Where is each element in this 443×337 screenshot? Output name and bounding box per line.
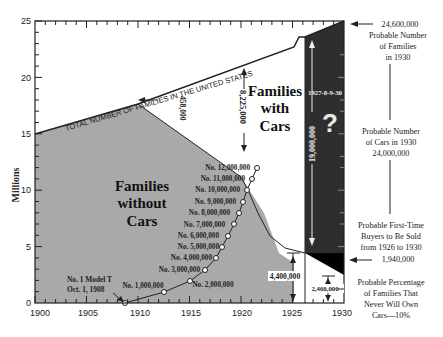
svg-text:No. 4,000,000: No. 4,000,000 xyxy=(171,254,213,262)
svg-text:Probable Percentage: Probable Percentage xyxy=(357,278,424,287)
svg-text:Buyers to Be Sold: Buyers to Be Sold xyxy=(361,232,421,241)
never-own-note: Probable Percentage of Families That Nev… xyxy=(357,278,424,320)
svg-text:No. 12,000,000: No. 12,000,000 xyxy=(205,164,250,172)
x-tick-labels: 1900 1905 1910 1915 1920 1925 1930 xyxy=(30,308,352,318)
svg-text:5: 5 xyxy=(26,242,31,252)
svg-text:Probable First-Time: Probable First-Time xyxy=(358,221,424,230)
svg-text:1,940,000: 1,940,000 xyxy=(382,255,415,264)
gap-1926-label: 4,400,000 xyxy=(270,272,301,281)
svg-text:Families: Families xyxy=(248,83,302,99)
svg-text:1905: 1905 xyxy=(78,308,98,318)
svg-text:1920: 1920 xyxy=(232,308,252,318)
gap-1920-label: 8,225,000 xyxy=(238,90,248,124)
svg-text:15: 15 xyxy=(21,129,31,139)
svg-text:without: without xyxy=(117,195,166,211)
svg-text:1915: 1915 xyxy=(181,308,201,318)
future-total-label: 19,000,000 xyxy=(308,126,317,162)
svg-text:No. 8,000,000: No. 8,000,000 xyxy=(189,209,231,217)
svg-text:with: with xyxy=(261,100,290,116)
svg-text:25: 25 xyxy=(21,16,31,26)
question-mark: ? xyxy=(322,108,338,138)
svg-text:Families: Families xyxy=(115,178,169,194)
families-note: 24,600,000 Probable Number of Families i… xyxy=(369,20,427,62)
arrow-down-icon xyxy=(241,145,247,152)
svg-text:No. 7,000,000: No. 7,000,000 xyxy=(184,221,226,229)
svg-text:1900: 1900 xyxy=(30,308,50,318)
y-axis-label: Millions xyxy=(10,167,21,202)
total-families-line xyxy=(35,21,344,134)
svg-text:1925: 1925 xyxy=(282,308,302,318)
svg-text:Probable Number: Probable Number xyxy=(369,31,427,40)
svg-text:Cars: Cars xyxy=(260,118,291,134)
future-years-label: 1927-8-9-30 xyxy=(308,89,343,96)
y-tick-labels: 25 20 15 10 5 0 xyxy=(21,16,31,308)
svg-text:Oct. 1, 1908: Oct. 1, 1908 xyxy=(67,285,105,294)
arrow-left-icon xyxy=(349,257,357,263)
arrow-up-icon xyxy=(290,256,296,263)
svg-text:1910: 1910 xyxy=(130,308,150,318)
svg-text:in 1930: in 1930 xyxy=(386,53,411,62)
gap-1910-label: 458,000 xyxy=(178,96,187,121)
svg-text:of Cars in 1930: of Cars in 1930 xyxy=(366,138,417,147)
svg-text:No. 10,000,000: No. 10,000,000 xyxy=(195,186,240,194)
arrow-left-icon xyxy=(350,21,358,27)
svg-text:No. 1 Model T: No. 1 Model T xyxy=(67,275,112,284)
svg-text:1930: 1930 xyxy=(332,308,352,318)
svg-text:0: 0 xyxy=(26,298,31,308)
svg-text:Cars: Cars xyxy=(127,213,158,229)
svg-text:No. 6,000,000: No. 6,000,000 xyxy=(178,232,220,240)
gap-1930-label: 2,460,000 xyxy=(311,285,339,292)
svg-text:from 1926 to 1930: from 1926 to 1930 xyxy=(360,243,421,252)
svg-text:No. 5,000,000: No. 5,000,000 xyxy=(178,243,220,251)
svg-text:of Families That: of Families That xyxy=(364,289,419,298)
svg-text:24,000,000: 24,000,000 xyxy=(373,149,410,158)
svg-text:No. 9,000,000: No. 9,000,000 xyxy=(195,198,237,206)
svg-text:No. 2,000,000: No. 2,000,000 xyxy=(192,281,234,289)
svg-text:24,600,000: 24,600,000 xyxy=(382,20,419,29)
svg-text:of Families: of Families xyxy=(379,42,416,51)
svg-text:20: 20 xyxy=(21,73,31,83)
svg-text:No. 3,000,000: No. 3,000,000 xyxy=(159,266,201,274)
svg-text:Cars—10%: Cars—10% xyxy=(372,311,410,320)
with-cars-label: Families with Cars xyxy=(248,83,302,134)
svg-text:No. 11,000,000: No. 11,000,000 xyxy=(201,175,246,183)
chart-canvas: 25 20 15 10 5 0 1900 1905 1910 1915 1920… xyxy=(0,0,443,337)
buyers-note: Probable First-Time Buyers to Be Sold fr… xyxy=(358,221,424,264)
svg-text:Probable Number: Probable Number xyxy=(362,127,420,136)
svg-text:No. 1,000,000: No. 1,000,000 xyxy=(122,282,164,290)
svg-text:Never Will Own: Never Will Own xyxy=(364,300,418,309)
cars-note: Probable Number of Cars in 1930 24,000,0… xyxy=(362,127,420,158)
svg-text:10: 10 xyxy=(21,185,31,195)
